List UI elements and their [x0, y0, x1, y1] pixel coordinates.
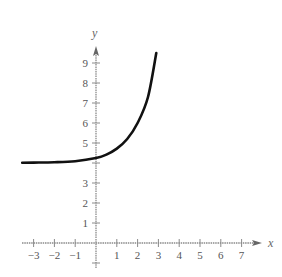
y-tick-label: 3	[83, 177, 89, 189]
y-tick-label: 7	[83, 97, 89, 109]
data-curve	[22, 53, 156, 163]
x-tick-label: 2	[135, 249, 141, 261]
y-tick-label: 8	[83, 77, 89, 89]
x-tick-label: 3	[156, 249, 162, 261]
y-axis-arrow-icon	[93, 46, 99, 56]
x-tick-label: 4	[176, 249, 182, 261]
y-tick-label: 6	[83, 117, 89, 129]
x-tick-label: 5	[197, 249, 203, 261]
x-axis-title: x	[267, 236, 274, 250]
x-tick-label: −3	[28, 249, 40, 261]
y-tick-label: 2	[83, 197, 89, 209]
x-tick-label: 1	[114, 249, 120, 261]
axes	[22, 46, 262, 268]
tick-labels: −3−2−1123456712356789	[28, 57, 245, 261]
x-tick-label: 7	[239, 249, 245, 261]
y-axis-title: y	[91, 26, 98, 40]
x-tick-label: −1	[69, 249, 81, 261]
x-tick-label: 6	[218, 249, 224, 261]
chart: −3−2−1123456712356789 x y	[0, 0, 282, 277]
y-tick-label: 1	[83, 217, 89, 229]
y-tick-label: 9	[83, 57, 89, 69]
x-tick-label: −2	[49, 249, 61, 261]
y-tick-label: 5	[83, 137, 89, 149]
